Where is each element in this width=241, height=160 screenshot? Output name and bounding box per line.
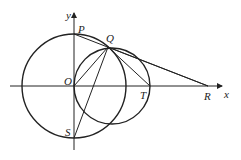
point-label-R: R — [203, 90, 211, 102]
x-axis-label: x — [223, 88, 229, 100]
segment-QS — [74, 47, 108, 138]
point-label-Q: Q — [106, 32, 114, 44]
segment-QT — [108, 47, 150, 86]
point-label-P: P — [77, 23, 85, 35]
geometry-diagram: y x O P Q R S T — [0, 0, 241, 160]
y-axis-label: y — [65, 9, 71, 21]
point-label-S: S — [65, 126, 71, 138]
point-label-O: O — [64, 75, 72, 87]
segment-QR — [108, 47, 208, 86]
point-label-T: T — [140, 89, 147, 101]
